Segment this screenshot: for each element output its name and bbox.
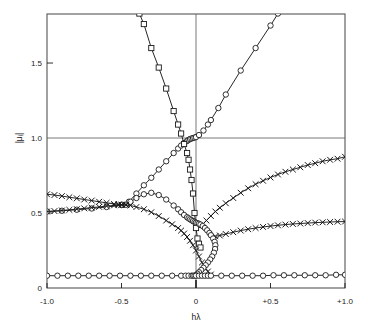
marker-circle xyxy=(333,272,338,277)
marker-circle xyxy=(250,273,255,278)
marker-square xyxy=(141,21,146,26)
marker-cross xyxy=(290,167,296,173)
marker-circle xyxy=(156,167,161,172)
marker-circle xyxy=(117,273,122,278)
marker-cross xyxy=(260,178,266,184)
marker-circle xyxy=(260,273,265,278)
marker-circle xyxy=(96,273,101,278)
marker-circle xyxy=(208,117,213,122)
marker-circle xyxy=(223,92,228,97)
marker-circle xyxy=(171,150,176,155)
marker-square xyxy=(184,150,189,155)
marker-square xyxy=(189,177,194,182)
marker-circle xyxy=(164,159,169,164)
marker-circle xyxy=(216,105,221,110)
y-tick-label-3: 1.5 xyxy=(31,59,43,68)
marker-square xyxy=(181,141,186,146)
x-tick-label-0: -1.0 xyxy=(40,297,54,306)
marker-circle xyxy=(44,273,49,278)
marker-circle xyxy=(141,183,146,188)
marker-square xyxy=(195,236,200,241)
marker-cross xyxy=(163,218,169,224)
marker-circle xyxy=(149,273,154,278)
marker-cross xyxy=(141,206,147,212)
curve-line xyxy=(202,157,345,225)
marker-square xyxy=(164,86,169,91)
series-branch-8-cross-right-lower xyxy=(212,219,347,239)
series-branch-10-circle-baseline xyxy=(44,272,347,278)
series-branch-7-cross-right-upper xyxy=(199,154,348,228)
figure-container: -1.0-0.50+0.5+1.000.51.01.5hλ|μᵢ| xyxy=(0,0,368,331)
marker-cross xyxy=(283,169,289,175)
marker-circle xyxy=(169,273,174,278)
marker-circle xyxy=(138,273,143,278)
marker-square xyxy=(156,65,161,70)
x-tick-label-4: +1.0 xyxy=(337,297,353,306)
marker-cross xyxy=(253,181,259,187)
marker-square xyxy=(149,45,154,50)
marker-circle xyxy=(268,23,273,28)
marker-circle xyxy=(55,273,60,278)
marker-circle xyxy=(171,203,176,208)
marker-cross xyxy=(297,164,303,170)
axis-labels-layer: -1.0-0.50+0.5+1.000.51.01.5hλ|μᵢ| xyxy=(14,59,353,322)
marker-square xyxy=(171,108,176,113)
marker-cross xyxy=(223,231,229,237)
marker-circle xyxy=(128,273,133,278)
y-tick-label-1: 0.5 xyxy=(31,209,43,218)
marker-square xyxy=(192,210,197,215)
marker-cross xyxy=(169,221,175,227)
marker-circle xyxy=(134,195,139,200)
marker-circle xyxy=(292,273,297,278)
marker-cross xyxy=(212,209,218,215)
marker-square xyxy=(187,167,192,172)
marker-circle xyxy=(323,273,328,278)
marker-circle xyxy=(76,273,81,278)
marker-cross xyxy=(156,213,162,219)
marker-cross xyxy=(245,185,251,191)
marker-cross xyxy=(268,175,274,181)
marker-circle xyxy=(196,132,201,137)
marker-circle xyxy=(302,273,307,278)
marker-circle xyxy=(65,273,70,278)
marker-cross xyxy=(223,200,229,206)
marker-square xyxy=(190,191,195,196)
marker-cross xyxy=(148,209,154,215)
marker-square xyxy=(176,122,181,127)
marker-circle xyxy=(159,273,164,278)
marker-circle xyxy=(141,192,146,197)
marker-cross xyxy=(217,205,223,211)
gridlines-layer xyxy=(47,14,345,288)
marker-circle xyxy=(89,206,94,211)
marker-square xyxy=(186,157,191,162)
marker-cross xyxy=(196,254,202,260)
marker-circle xyxy=(281,273,286,278)
marker-square xyxy=(179,131,184,136)
y-tick-label-2: 1.0 xyxy=(31,134,43,143)
marker-circle xyxy=(342,272,347,277)
series-branch-5-cross-left-lower xyxy=(44,202,129,215)
marker-circle xyxy=(313,273,318,278)
x-tick-label-1: -0.5 xyxy=(115,297,129,306)
marker-circle xyxy=(86,273,91,278)
marker-circle xyxy=(201,128,206,133)
marker-cross xyxy=(230,195,236,201)
curve-line xyxy=(47,14,278,212)
marker-cross xyxy=(275,172,281,178)
marker-circle xyxy=(219,273,224,278)
y-axis-title: |μᵢ| xyxy=(14,133,24,144)
marker-circle xyxy=(253,45,258,50)
marker-circle xyxy=(229,273,234,278)
marker-circle xyxy=(107,273,112,278)
marker-circle xyxy=(164,197,169,202)
marker-cross xyxy=(134,204,140,210)
marker-circle xyxy=(238,68,243,73)
marker-circle xyxy=(156,192,161,197)
x-axis-title: hλ xyxy=(192,312,202,322)
x-tick-label-3: +0.5 xyxy=(263,297,279,306)
marker-cross xyxy=(184,234,190,240)
marker-cross xyxy=(305,162,311,168)
marker-cross xyxy=(238,190,244,196)
marker-circle xyxy=(149,190,154,195)
marker-circle xyxy=(271,273,276,278)
